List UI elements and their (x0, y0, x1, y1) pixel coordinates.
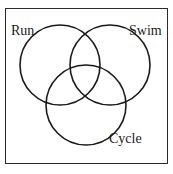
venn-diagram-screenshot: Run Swim Cycle (0, 0, 173, 174)
set-label-cycle: Cycle (109, 132, 142, 146)
set-label-swim: Swim (129, 24, 162, 38)
set-label-run: Run (11, 24, 34, 38)
